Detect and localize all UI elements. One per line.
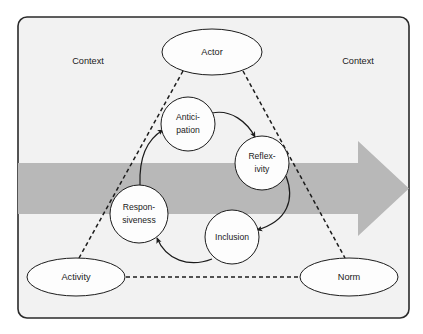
context-label-right: Context (342, 56, 374, 66)
inclusion-label: Inclusion (215, 232, 249, 242)
anticipation-label-line1: Antici- (176, 112, 200, 122)
node-anticipation[interactable]: Antici- pation (161, 97, 215, 151)
responsiveness-label-line1: Respon- (123, 202, 156, 212)
anticipation-label-line2: pation (176, 125, 200, 135)
reflexivity-label-line1: Reflex- (248, 151, 275, 161)
anticipation-circle[interactable] (161, 97, 215, 151)
node-reflexivity[interactable]: Reflex- ivity (235, 136, 289, 190)
diagram-svg: Actor Activity Norm Antici- pation Refle… (0, 0, 423, 334)
node-activity[interactable]: Activity (27, 258, 125, 296)
node-responsiveness[interactable]: Respon- siveness (110, 185, 168, 243)
node-inclusion[interactable]: Inclusion (205, 210, 259, 264)
actor-label: Actor (201, 47, 222, 57)
activity-label: Activity (61, 272, 91, 282)
reflexivity-circle[interactable] (235, 136, 289, 190)
node-norm[interactable]: Norm (300, 258, 398, 296)
responsiveness-label-line2: siveness (122, 215, 155, 225)
reflexivity-label-line2: ivity (255, 164, 271, 174)
diagram-canvas: Actor Activity Norm Antici- pation Refle… (0, 0, 423, 334)
responsiveness-circle[interactable] (110, 185, 168, 243)
context-label-left: Context (72, 56, 104, 66)
norm-label: Norm (338, 272, 361, 282)
node-actor[interactable]: Actor (162, 29, 262, 75)
